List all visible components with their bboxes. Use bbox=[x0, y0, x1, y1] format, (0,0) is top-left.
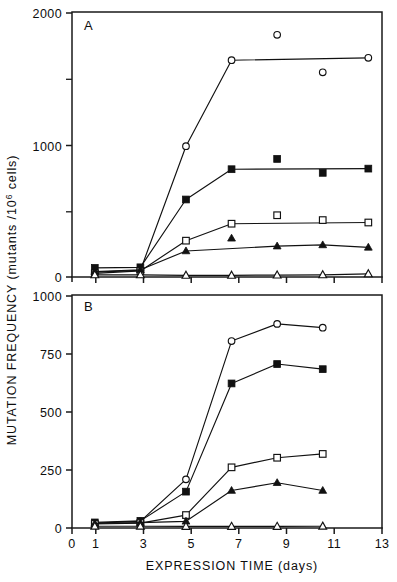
xticklabel-0: 0 bbox=[68, 537, 75, 551]
datapoint-open-square-day9 bbox=[274, 212, 281, 219]
xticklabel-1: 1 bbox=[92, 537, 99, 551]
datapoint-open-circle-day5 bbox=[183, 476, 190, 483]
series-filled-triangle bbox=[91, 479, 327, 527]
datapoint-filled-square-day9 bbox=[274, 361, 281, 368]
y-axis-title-text: MUTATION FREQUENCY (mutants / bbox=[5, 215, 19, 445]
y-axis-title-base: 10 bbox=[5, 199, 19, 215]
datapoint-filled-square-day7 bbox=[228, 166, 235, 173]
datapoint-open-square-day11 bbox=[319, 217, 326, 224]
panel-b-y-ticks bbox=[66, 296, 72, 528]
datapoint-filled-square-day5 bbox=[183, 488, 190, 495]
series-line-open-square bbox=[95, 223, 369, 274]
xticklabel-13: 13 bbox=[375, 537, 390, 551]
panel-a-y-ticks bbox=[66, 13, 72, 277]
datapoint-open-square-day5 bbox=[183, 237, 190, 244]
datapoint-filled-square-day9 bbox=[274, 156, 281, 163]
panel-b-yticklabel-500: 500 bbox=[40, 406, 62, 420]
datapoint-open-circle-day7 bbox=[228, 338, 235, 345]
chart-canvas: MUTATION FREQUENCY (mutants /106 cells) … bbox=[0, 0, 397, 582]
panel-b-x-ticks bbox=[72, 528, 382, 534]
datapoint-open-triangle-day11 bbox=[319, 522, 327, 529]
panel-b-label: B bbox=[84, 299, 93, 314]
datapoint-open-square-day7 bbox=[228, 464, 235, 471]
datapoint-open-square-day7 bbox=[228, 220, 235, 227]
panel-a: 0 1000 2000 A bbox=[33, 7, 382, 285]
x-axis-title: EXPRESSION TIME (days) bbox=[146, 559, 318, 573]
series-open-square bbox=[91, 451, 326, 528]
datapoint-filled-triangle-day9 bbox=[273, 479, 281, 486]
panel-a-y-ticklabels: 0 1000 2000 bbox=[33, 7, 62, 285]
panel-a-label: A bbox=[84, 18, 93, 33]
series-filled-triangle bbox=[91, 234, 372, 274]
xticklabel-11: 11 bbox=[327, 537, 341, 551]
panel-b-yticklabel-0: 0 bbox=[55, 522, 62, 536]
y-axis-title-tail: cells) bbox=[5, 155, 19, 194]
datapoint-filled-square-day11 bbox=[319, 366, 326, 373]
xticklabel-5: 5 bbox=[188, 537, 195, 551]
datapoint-filled-square-day7 bbox=[228, 380, 235, 387]
datapoint-open-circle-day13 bbox=[365, 55, 372, 62]
panel-a-yticklabel-2000: 2000 bbox=[33, 7, 62, 21]
datapoint-filled-triangle-day7 bbox=[228, 234, 236, 241]
series-filled-square bbox=[91, 156, 371, 272]
panel-a-frame bbox=[72, 12, 382, 277]
datapoint-open-square-day13 bbox=[365, 219, 372, 226]
datapoint-open-triangle-day7 bbox=[228, 271, 236, 278]
panel-b-yticklabel-1000: 1000 bbox=[33, 290, 62, 304]
datapoint-open-triangle-day13 bbox=[364, 270, 372, 277]
panel-b-yticklabel-750: 750 bbox=[40, 348, 62, 362]
datapoint-open-circle-day7 bbox=[228, 57, 235, 64]
series-filled-square bbox=[91, 361, 326, 526]
datapoint-filled-triangle-day11 bbox=[319, 241, 327, 248]
series-line-filled-triangle bbox=[95, 483, 323, 524]
panel-a-x-ticks bbox=[72, 277, 382, 283]
series-line-filled-square bbox=[95, 364, 323, 522]
panel-b-data bbox=[91, 321, 327, 530]
panel-b-y-ticklabels: 0 250 500 750 1000 bbox=[33, 290, 62, 536]
series-open-circle bbox=[91, 321, 326, 527]
x-axis-ticklabels: 0 1 3 5 7 9 11 13 bbox=[68, 537, 389, 551]
datapoint-open-square-day9 bbox=[274, 454, 281, 461]
datapoint-open-circle-day9 bbox=[274, 321, 281, 328]
panel-a-yticklabel-1000: 1000 bbox=[33, 140, 62, 154]
xticklabel-9: 9 bbox=[283, 537, 290, 551]
panel-a-data bbox=[91, 31, 372, 278]
datapoint-open-triangle-day7 bbox=[228, 522, 236, 529]
datapoint-open-circle-day11 bbox=[319, 69, 326, 76]
datapoint-filled-square-day13 bbox=[365, 165, 372, 172]
svg-text:MUTATION FREQUENCY (mutants /1: MUTATION FREQUENCY (mutants /106 cells) bbox=[4, 155, 19, 446]
series-line-open-circle bbox=[95, 324, 323, 523]
series-line-filled-square bbox=[95, 169, 369, 268]
datapoint-filled-square-day11 bbox=[319, 169, 326, 176]
panel-b-yticklabel-250: 250 bbox=[40, 464, 62, 478]
xticklabel-3: 3 bbox=[140, 537, 147, 551]
panel-b: 0 250 500 750 1000 B bbox=[33, 290, 382, 536]
y-axis-title: MUTATION FREQUENCY (mutants /106 cells) bbox=[4, 155, 19, 446]
datapoint-open-square-day11 bbox=[319, 451, 326, 458]
datapoint-filled-square-day5 bbox=[183, 196, 190, 203]
datapoint-open-circle-day11 bbox=[319, 324, 326, 331]
xticklabel-7: 7 bbox=[235, 537, 242, 551]
panel-a-yticklabel-0: 0 bbox=[55, 271, 62, 285]
series-line-open-square bbox=[95, 454, 323, 524]
figure-root: MUTATION FREQUENCY (mutants /106 cells) … bbox=[0, 0, 397, 582]
datapoint-open-triangle-day9 bbox=[273, 271, 281, 278]
datapoint-open-circle-day9 bbox=[274, 31, 281, 38]
datapoint-open-circle-day5 bbox=[183, 143, 190, 150]
datapoint-open-triangle-day9 bbox=[273, 522, 281, 529]
